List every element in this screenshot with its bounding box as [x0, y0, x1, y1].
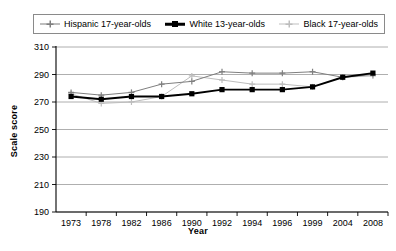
line-chart-plot: 190210230250270290310 197319781982198619… [0, 40, 396, 251]
y-axis-tick-labels: 190210230250270290310 [34, 42, 49, 217]
plus-marker-icon [40, 19, 60, 29]
legend-item-hispanic-17-year-olds: Hispanic 17-year-olds [40, 19, 151, 29]
legend-label-white: White 13-year-olds [189, 20, 265, 29]
x-axis-tick-marks [86, 212, 388, 216]
legend-label-black: Black 17-year-olds [303, 20, 378, 29]
y-axis-tick-label: 290 [34, 70, 49, 80]
plus-marker-icon [279, 19, 299, 29]
y-axis-tick-label: 190 [34, 207, 49, 217]
x-axis-title: Year [0, 226, 396, 236]
y-axis-tick-label: 210 [34, 180, 49, 190]
legend-label-hispanic: Hispanic 17-year-olds [64, 20, 151, 29]
series-hispanic-17-year-olds [68, 69, 376, 98]
y-axis-title: Scale score [9, 96, 19, 166]
square-marker-icon [165, 19, 185, 29]
y-axis-tick-label: 270 [34, 97, 49, 107]
legend-item-black-17-year-olds: Black 17-year-olds [279, 19, 378, 29]
y-axis-tick-label: 310 [34, 42, 49, 52]
chart-area: 190210230250270290310 197319781982198619… [0, 40, 396, 251]
y-axis-tick-label: 230 [34, 152, 49, 162]
chart-legend: Hispanic 17-year-olds White 13-year-olds… [33, 14, 385, 34]
y-axis-tick-label: 250 [34, 125, 49, 135]
legend-item-white-13-year-olds: White 13-year-olds [165, 19, 265, 29]
